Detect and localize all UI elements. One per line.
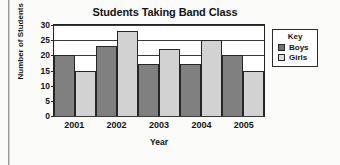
plot-area: 051015202530 xyxy=(53,24,265,117)
bar-girls-2001 xyxy=(75,71,96,117)
y-tick-mark xyxy=(51,116,54,117)
y-tick-label: 25 xyxy=(41,35,50,45)
bar-boys-2001 xyxy=(54,55,75,116)
chart-page: Students Taking Band Class Number of Stu… xyxy=(0,0,340,165)
legend-swatch-boys-icon xyxy=(278,44,285,51)
bar-group-2003 xyxy=(138,25,180,116)
y-tick-label: 20 xyxy=(41,50,50,60)
gridline: 0 xyxy=(54,116,264,117)
bar-boys-2004 xyxy=(180,64,201,116)
x-tick-label-2002: 2002 xyxy=(95,120,137,134)
bar-girls-2003 xyxy=(159,49,180,116)
x-tick-label-2003: 2003 xyxy=(138,120,180,134)
x-axis-tick-labels: 20012002200320042005 xyxy=(53,120,265,134)
bar-group-2004 xyxy=(180,25,222,116)
legend-rows: BoysGirls xyxy=(273,43,317,63)
page-edge-line-shadow xyxy=(9,0,10,165)
y-tick-label: 5 xyxy=(45,96,50,106)
y-tick-label: 10 xyxy=(41,81,50,91)
bar-girls-2005 xyxy=(243,71,264,117)
legend-label-girls: Girls xyxy=(289,53,307,62)
bar-group-2005 xyxy=(222,25,264,116)
legend-swatch-girls-icon xyxy=(278,54,285,61)
y-tick-label: 0 xyxy=(45,111,50,121)
bar-boys-2005 xyxy=(222,55,243,116)
legend: Key BoysGirls xyxy=(272,29,318,67)
x-tick-label-2004: 2004 xyxy=(180,120,222,134)
y-tick-label: 15 xyxy=(41,66,50,76)
bar-groups xyxy=(54,25,264,116)
legend-label-boys: Boys xyxy=(289,43,309,52)
x-axis-label: Year xyxy=(53,137,265,147)
bar-girls-2004 xyxy=(201,40,222,116)
bar-girls-2002 xyxy=(117,31,138,116)
x-tick-label-2001: 2001 xyxy=(53,120,95,134)
bar-group-2001 xyxy=(54,25,96,116)
y-axis-label: Number of Students xyxy=(16,4,25,80)
bar-boys-2003 xyxy=(138,64,159,116)
legend-title: Key xyxy=(273,32,317,41)
bar-group-2002 xyxy=(96,25,138,116)
x-tick-label-2005: 2005 xyxy=(223,120,265,134)
legend-item-boys: Boys xyxy=(273,43,317,53)
legend-item-girls: Girls xyxy=(273,53,317,63)
chart-title: Students Taking Band Class xyxy=(60,6,270,18)
bar-boys-2002 xyxy=(96,46,117,116)
y-tick-label: 30 xyxy=(41,20,50,30)
